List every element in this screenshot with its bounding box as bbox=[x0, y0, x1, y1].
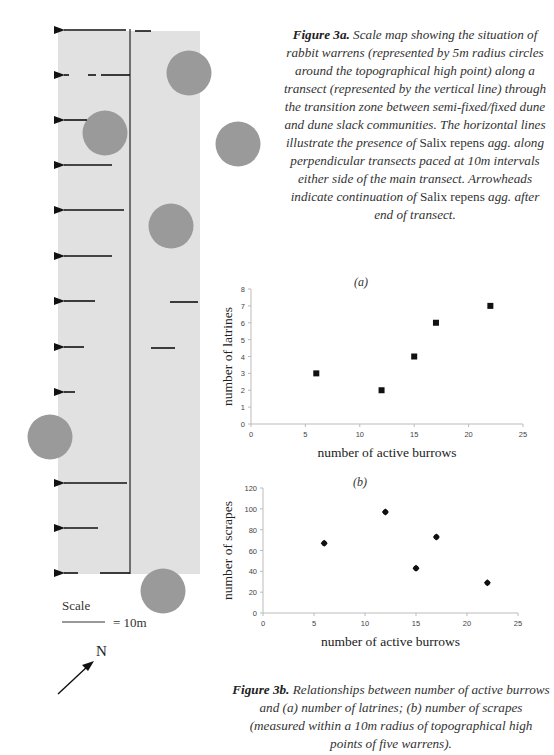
species-name: Salix repens bbox=[420, 135, 485, 150]
x-axis-label: number of active burrows bbox=[321, 634, 460, 649]
warren-circle bbox=[149, 204, 194, 249]
y-tick-label: 60 bbox=[249, 547, 257, 556]
x-tick-label: 5 bbox=[312, 619, 316, 628]
warren-circle bbox=[28, 415, 73, 460]
figure-3b-title: Figure 3b. bbox=[232, 682, 289, 697]
warren-circle bbox=[167, 51, 212, 96]
y-tick-label: 4 bbox=[241, 353, 245, 362]
y-tick-label: 7 bbox=[241, 302, 245, 311]
y-axis-label: number of scrapes bbox=[220, 501, 235, 600]
x-tick-label: 15 bbox=[410, 430, 418, 439]
scale-label: Scale bbox=[62, 598, 90, 613]
data-point bbox=[487, 303, 493, 309]
chart-scrapes: 0204060801001200510152025(b)number of ac… bbox=[220, 470, 554, 660]
figure-3a-caption: Figure 3a. Scale map showing the situati… bbox=[281, 26, 549, 224]
data-point bbox=[411, 354, 417, 360]
x-tick-label: 0 bbox=[249, 430, 253, 439]
warren-circle bbox=[141, 569, 186, 614]
north-label: N bbox=[96, 643, 107, 659]
chart-title: (a) bbox=[354, 275, 368, 289]
y-tick-label: 6 bbox=[241, 319, 245, 328]
y-tick-label: 1 bbox=[241, 403, 245, 412]
y-tick-label: 100 bbox=[244, 505, 257, 514]
data-point bbox=[379, 387, 385, 393]
y-tick-label: 0 bbox=[253, 609, 257, 618]
x-tick-label: 20 bbox=[464, 430, 472, 439]
x-tick-label: 10 bbox=[356, 430, 364, 439]
x-tick-label: 5 bbox=[303, 430, 307, 439]
x-tick-label: 15 bbox=[412, 619, 420, 628]
warren-circle bbox=[216, 122, 261, 167]
data-point bbox=[313, 370, 319, 376]
figure-3a-title: Figure 3a. bbox=[293, 27, 350, 42]
chart-title: (b) bbox=[353, 475, 367, 489]
x-axis-label: number of active burrows bbox=[317, 445, 456, 460]
x-tick-label: 0 bbox=[261, 619, 265, 628]
y-axis-label: number of latrines bbox=[220, 307, 235, 406]
y-tick-label: 2 bbox=[241, 386, 245, 395]
x-tick-label: 10 bbox=[361, 619, 369, 628]
data-point bbox=[433, 320, 439, 326]
y-tick-label: 20 bbox=[249, 588, 257, 597]
y-tick-label: 80 bbox=[249, 526, 257, 535]
x-tick-label: 25 bbox=[519, 430, 527, 439]
x-tick-label: 25 bbox=[514, 619, 522, 628]
x-tick-label: 20 bbox=[463, 619, 471, 628]
y-tick-label: 120 bbox=[244, 484, 257, 493]
figure-3b-caption: Figure 3b. Relationships between number … bbox=[232, 681, 550, 753]
species-name: Salix repens bbox=[420, 189, 485, 204]
y-tick-label: 5 bbox=[241, 336, 245, 345]
y-tick-label: 8 bbox=[241, 285, 245, 294]
y-tick-label: 0 bbox=[241, 420, 245, 429]
y-tick-label: 3 bbox=[241, 369, 245, 378]
y-tick-label: 40 bbox=[249, 567, 257, 576]
chart-latrines: 0123456780510152025(a)number of active b… bbox=[220, 260, 554, 460]
scale-value: = 10m bbox=[113, 615, 147, 630]
warren-circle bbox=[83, 111, 128, 156]
north-arrow bbox=[58, 666, 88, 694]
